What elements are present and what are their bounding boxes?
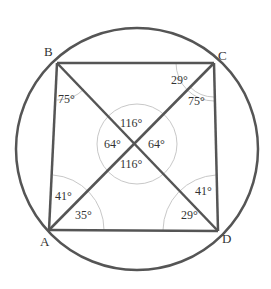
side-AB	[49, 63, 57, 230]
angle-label-A-top: 41°	[55, 189, 72, 203]
diagonal-AC	[49, 63, 214, 230]
cyclic-quadrilateral-diagram: B C A D 75° 29° 75° 116° 64° 64° 116° 41…	[0, 0, 271, 289]
angle-label-C-top: 29°	[171, 73, 188, 87]
diagonal-BD	[57, 63, 218, 231]
point-label-C: C	[218, 48, 227, 63]
quadrilateral	[49, 63, 218, 231]
point-label-D: D	[222, 231, 231, 246]
angle-label-center-top: 116°	[120, 116, 143, 130]
angle-label-B: 75°	[58, 92, 75, 106]
angle-label-center-left: 64°	[104, 137, 121, 151]
angle-label-center-bottom: 116°	[120, 157, 143, 171]
angle-label-A-bottom: 35°	[75, 208, 92, 222]
angle-label-D-bottom: 29°	[181, 208, 198, 222]
point-label-B: B	[44, 44, 53, 59]
angle-label-C-bottom: 75°	[188, 94, 205, 108]
point-label-A: A	[40, 234, 50, 249]
side-CD	[214, 63, 218, 231]
angle-label-center-right: 64°	[148, 137, 165, 151]
angle-label-D-top: 41°	[195, 184, 212, 198]
side-DA	[49, 230, 218, 231]
